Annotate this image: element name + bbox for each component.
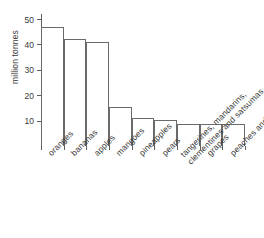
y-tick: 50 xyxy=(37,19,41,20)
y-tick: 40 xyxy=(37,44,41,45)
bar xyxy=(41,27,64,146)
y-tick-label: 20 xyxy=(25,91,34,101)
y-tick-label: 40 xyxy=(25,40,34,50)
y-tick-label: 50 xyxy=(25,15,34,25)
y-tick: 30 xyxy=(37,70,41,71)
x-category-labels: orangesbananasapplesmangoespineapplespea… xyxy=(41,148,264,238)
y-tick: 20 xyxy=(37,95,41,96)
y-axis-label: million tonnes xyxy=(10,12,20,102)
y-tick-label: 10 xyxy=(25,116,34,126)
y-tick: 10 xyxy=(37,121,41,122)
y-tick-label: 30 xyxy=(25,65,34,75)
bar-chart: million tonnes 1020304050 orangesbananas… xyxy=(0,0,264,238)
